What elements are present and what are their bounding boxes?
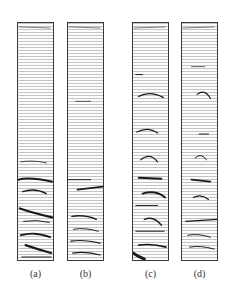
streak-overlay-d [182, 23, 217, 260]
panel-label-b: (b) [67, 268, 104, 279]
streak-overlay-b [68, 23, 103, 260]
panel-label-a: (a) [17, 268, 54, 279]
panel-label-d: (d) [181, 268, 218, 279]
vector-field-panel-c [132, 22, 169, 261]
vector-field-panel-d [181, 22, 218, 261]
panel-label-c: (c) [132, 268, 169, 279]
vector-field-panel-a [17, 22, 54, 261]
streak-overlay-c [133, 23, 168, 260]
streak-overlay-a [18, 23, 53, 260]
vector-field-panel-b [67, 22, 104, 261]
